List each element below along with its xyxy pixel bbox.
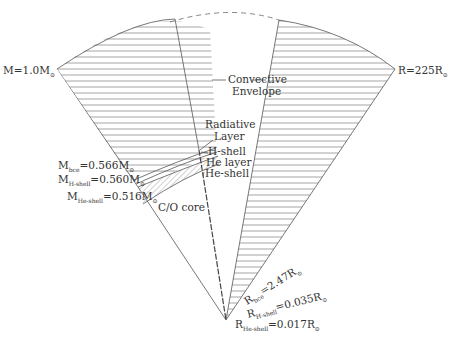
radius-total-label: R=225R⊙ (398, 64, 448, 78)
core-label: C/O core (158, 201, 205, 213)
mass-total-label: M=1.0M⊙ (3, 64, 55, 78)
convective-envelope-label-1: Convective (228, 73, 287, 85)
outer-boundary-dashed (170, 12, 279, 22)
he-shell-label: He-shell (205, 167, 250, 179)
radiative-layer-label-2: Layer (214, 130, 245, 142)
stellar-structure-diagram: M=1.0M⊙ Mbce=0.566M⊙ MH-shell=0.560M⊙ MH… (0, 0, 450, 338)
radiative-layer-label-1: Radiative (205, 118, 255, 130)
convective-envelope-label-2: Envelope (232, 85, 281, 97)
